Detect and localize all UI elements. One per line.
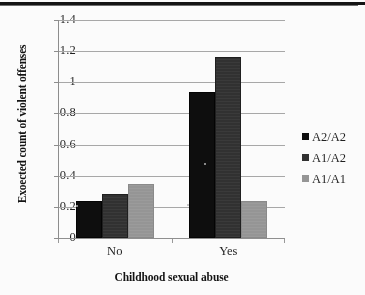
x-axis-category-label-yes: Yes — [188, 244, 268, 259]
bar-no-a1-a2 — [102, 194, 128, 238]
gridline — [58, 82, 285, 83]
y-axis-tick — [54, 176, 58, 177]
scan-speck — [187, 204, 189, 206]
scan-edge-rule — [0, 2, 365, 5]
legend-swatch-icon — [302, 154, 309, 161]
gridline — [58, 176, 285, 177]
bar-yes-a2-a2 — [189, 92, 215, 238]
bar-no-a1-a1 — [128, 184, 154, 239]
y-axis-tick — [54, 82, 58, 83]
y-axis-tick — [54, 145, 58, 146]
scan-speck — [204, 163, 206, 165]
y-axis-line — [58, 20, 59, 239]
legend: A2/A2A1/A2A1/A1 — [302, 126, 362, 189]
y-axis-tick — [54, 113, 58, 114]
y-axis-tick — [54, 51, 58, 52]
legend-item-a1-a1[interactable]: A1/A1 — [302, 168, 362, 189]
gridline — [58, 20, 285, 21]
x-axis-category-label-no: No — [75, 244, 155, 259]
gridline — [58, 145, 285, 146]
legend-swatch-icon — [302, 133, 309, 140]
bar-no-a2-a2 — [76, 201, 102, 238]
x-axis-title: Childhood sexual abuse — [58, 271, 285, 283]
legend-label: A1/A2 — [312, 152, 346, 164]
x-axis-tick — [284, 239, 285, 243]
legend-item-a2-a2[interactable]: A2/A2 — [302, 126, 362, 147]
y-axis-tick — [54, 20, 58, 21]
bar-yes-a1-a1 — [241, 201, 267, 238]
bar-yes-a1-a2 — [215, 57, 241, 238]
legend-swatch-icon — [302, 175, 309, 182]
x-axis-tick — [58, 239, 59, 243]
legend-item-a1-a2[interactable]: A1/A2 — [302, 147, 362, 168]
legend-label: A1/A1 — [312, 173, 346, 185]
legend-label: A2/A2 — [312, 131, 346, 143]
y-axis-tick — [54, 207, 58, 208]
plot-area — [58, 20, 285, 238]
gridline — [58, 113, 285, 114]
x-axis-tick — [172, 239, 173, 243]
y-axis-title: Exoected count of violent offenses — [16, 6, 28, 242]
scan-speck — [76, 205, 78, 207]
gridline — [58, 51, 285, 52]
